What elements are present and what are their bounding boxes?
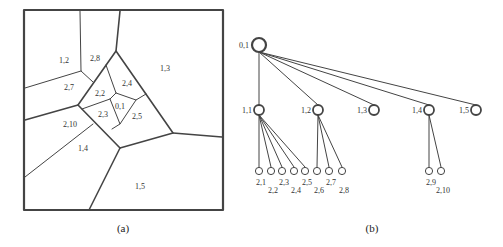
leaf-node <box>290 167 297 174</box>
leaf-node <box>437 167 444 174</box>
root-node <box>252 38 266 52</box>
caption-b: (b) <box>366 222 379 235</box>
level1-label: 1,2 <box>301 106 311 115</box>
region-label: 2,10 <box>63 120 77 129</box>
region-label: 1,2 <box>59 56 69 65</box>
level1-node <box>254 105 264 115</box>
region-label: 2,2 <box>95 89 105 98</box>
leaf-node <box>278 167 285 174</box>
level1-label: 1,1 <box>242 106 252 115</box>
leaf-node <box>301 167 308 174</box>
leaf-label: 2,2 <box>268 186 278 195</box>
tree-nodes: 0,11,11,21,31,41,52,12,22,32,42,52,62,72… <box>239 38 481 195</box>
region-label: 1,5 <box>135 182 145 191</box>
region-label: 0,1 <box>115 102 125 111</box>
region-label: 1,4 <box>78 144 88 153</box>
region-label: 2,4 <box>122 79 132 88</box>
leaf-label: 2,9 <box>426 178 436 187</box>
caption-a: (a) <box>117 222 130 235</box>
leaf-node <box>255 167 262 174</box>
leaf-node <box>325 167 332 174</box>
leaf-label: 2,6 <box>314 186 324 195</box>
leaf-node <box>313 167 320 174</box>
tree-edge <box>259 115 282 167</box>
tree-edge <box>259 115 294 167</box>
level1-node <box>313 105 323 115</box>
region-label: 2,7 <box>64 83 74 92</box>
tree-edge <box>318 115 329 167</box>
level1-label: 1,5 <box>459 106 469 115</box>
leaf-label: 2,5 <box>302 178 312 187</box>
tree-edge <box>429 115 441 167</box>
region-label: 2,5 <box>132 112 142 121</box>
leaf-node <box>425 167 432 174</box>
tree-edge <box>259 52 476 105</box>
tree-edge <box>259 52 374 105</box>
region-label: 1,3 <box>160 64 170 73</box>
tree-edge <box>318 115 342 167</box>
level1-node <box>424 105 434 115</box>
leaf-node <box>267 167 274 174</box>
level1-node <box>369 105 379 115</box>
leaf-label: 2,1 <box>256 178 266 187</box>
region-labels: 1,22,81,32,72,42,20,12,32,52,101,41,5 <box>59 54 170 191</box>
root-label: 0,1 <box>239 41 249 50</box>
tree-edge <box>259 52 318 105</box>
leaf-label: 2,4 <box>291 186 301 195</box>
leaf-label: 2,7 <box>326 178 336 187</box>
tree-edge <box>259 115 305 167</box>
region-label: 2,3 <box>98 110 108 119</box>
region-label: 2,8 <box>90 54 100 63</box>
level1-node <box>471 105 481 115</box>
diagram-canvas: 1,22,81,32,72,42,20,12,32,52,101,41,5 (a… <box>0 0 503 247</box>
tree-edge <box>259 52 429 105</box>
level1-label: 1,4 <box>412 106 422 115</box>
tree-edge <box>259 115 271 167</box>
leaf-label: 2,8 <box>339 186 349 195</box>
tree-edge <box>317 115 318 167</box>
leaf-label: 2,10 <box>436 186 450 195</box>
leaf-label: 2,3 <box>279 178 289 187</box>
tree-edges <box>259 52 476 167</box>
level1-label: 1,3 <box>357 106 367 115</box>
leaf-node <box>338 167 345 174</box>
